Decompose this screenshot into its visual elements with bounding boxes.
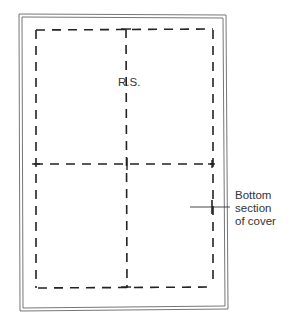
- dashed-outline: [36, 29, 213, 288]
- bottom-section-line-2: section: [235, 202, 276, 215]
- page-outline: [19, 14, 228, 311]
- bottom-section-label: Bottom section of cover: [235, 189, 276, 228]
- bottom-section-line-1: Bottom: [235, 189, 276, 202]
- cross-marks: [32, 29, 215, 287]
- bottom-section-line-3: of cover: [235, 215, 276, 228]
- fold-lines: [34, 29, 213, 288]
- pattern-diagram: [0, 0, 291, 324]
- rs-label: R.S.: [118, 76, 140, 89]
